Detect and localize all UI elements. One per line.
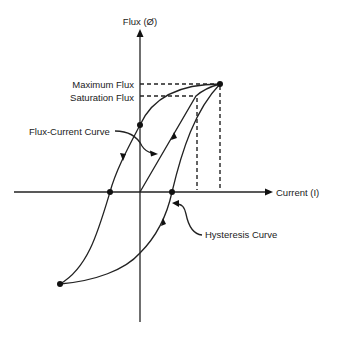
y-axis-label: Flux (Ø) xyxy=(123,16,157,27)
maximum-flux-label: Maximum Flux xyxy=(72,79,134,90)
negative-coercive-point xyxy=(107,189,113,195)
hysteresis-leader xyxy=(178,204,202,235)
y-axis-arrow-icon xyxy=(137,29,144,37)
positive-coercive-point xyxy=(169,189,175,195)
saturation-flux-label: Saturation Flux xyxy=(70,92,134,103)
flux-current-curve-label: Flux-Current Curve xyxy=(29,126,110,137)
hysteresis-diagram: Flux (Ø) Current (I) Maximum Flux Satura… xyxy=(0,0,337,337)
maximum-flux-point xyxy=(217,81,223,87)
x-axis-arrow-icon xyxy=(265,189,273,196)
negative-max-point xyxy=(57,281,63,287)
hysteresis-arrow-icon xyxy=(172,200,179,207)
residual-flux-point xyxy=(137,122,143,128)
descending-arrow-icon xyxy=(120,153,126,161)
x-axis-label: Current (I) xyxy=(276,187,319,198)
flux-current-arrow-icon xyxy=(150,151,158,157)
flux-current-leader xyxy=(115,131,152,153)
initial-magnetization-curve xyxy=(140,84,220,192)
hysteresis-curve-label: Hysteresis Curve xyxy=(205,229,277,240)
initial-curve-arrow-icon xyxy=(171,132,177,140)
